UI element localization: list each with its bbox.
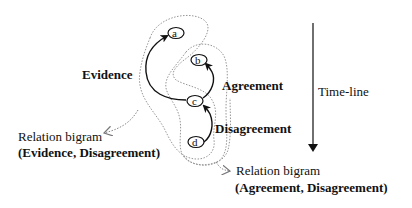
bigram-left-pair: (Evidence, Disagreement) [18,146,160,160]
bigram-right-pair: (Agreement, Disagreement) [235,181,388,195]
timeline-arrowhead-icon [308,144,318,152]
bigram-left-title: Relation bigram [18,130,102,144]
timeline-label: Time-line [318,85,369,99]
node-b-label: b [195,53,201,67]
bigram-right-title: Relation bigram [236,164,320,178]
edge-evidence [146,36,186,100]
edge-label-disagreement: Disagreement [215,122,291,136]
edge-label-agreement: Agreement [222,79,283,93]
pointer-arrow-left [104,110,138,133]
node-c-label: c [192,94,197,108]
edge-agreement [203,64,214,98]
edge-disagreement [204,106,212,142]
pointer-arrow-right [216,162,230,171]
relation-bigram-diagram [0,0,412,208]
edge-label-evidence: Evidence [82,68,133,82]
node-a-label: a [172,26,177,40]
node-d-label: d [192,135,198,149]
